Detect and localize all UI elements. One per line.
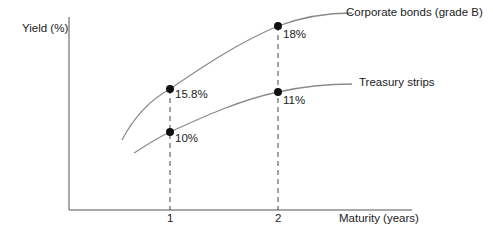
corp-series-name: Corporate bonds (grade B) xyxy=(346,6,483,18)
treasury-strips-curve xyxy=(134,84,352,153)
treas-point-1 xyxy=(166,128,174,136)
corp-point-1 xyxy=(166,85,174,93)
treas-label-1: 10% xyxy=(175,132,198,144)
yield-chart: 15.8% 18% 10% 11% Corporate bonds (grade… xyxy=(0,0,493,236)
corporate-bonds-curve xyxy=(122,13,352,140)
x-tick-2: 2 xyxy=(275,212,281,224)
y-axis-label: Yield (%) xyxy=(22,22,68,34)
treas-series-name: Treasury strips xyxy=(359,76,435,88)
treas-label-2: 11% xyxy=(283,94,305,106)
corp-label-1: 15.8% xyxy=(175,88,208,100)
x-tick-1: 1 xyxy=(167,212,173,224)
treas-point-2 xyxy=(274,88,282,96)
corp-label-2: 18% xyxy=(283,28,306,40)
corp-point-2 xyxy=(274,22,282,30)
x-axis-label: Maturity (years) xyxy=(339,212,419,224)
